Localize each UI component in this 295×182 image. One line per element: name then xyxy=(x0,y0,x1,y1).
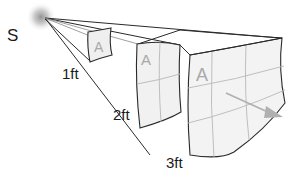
inverse-square-diagram: A A A S 1ft 2ft 3ft xyxy=(0,0,295,182)
panel-1ft-letter: A xyxy=(94,39,104,55)
distance-label-3ft: 3ft xyxy=(166,155,183,170)
diagram-canvas: A A A xyxy=(0,0,295,182)
panel-2ft-letter: A xyxy=(141,51,151,68)
light-source-glow xyxy=(26,2,56,32)
source-label: S xyxy=(7,27,18,44)
panel-1ft: A xyxy=(88,28,112,62)
distance-label-2ft: 2ft xyxy=(113,107,130,122)
distance-label-1ft: 1ft xyxy=(62,66,79,81)
panel-2ft: A xyxy=(136,42,181,128)
panel-3ft-letter: A xyxy=(196,65,208,85)
